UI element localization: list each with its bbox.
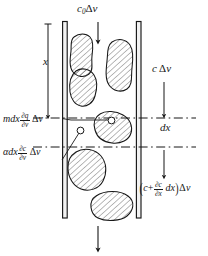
outlet-dx: dx (165, 182, 174, 193)
solid-numerator: ∂q (20, 112, 29, 120)
particle-middle-left (70, 69, 97, 106)
solid-partial-fraction: ∂q ∂v (20, 112, 29, 128)
fluid-lead: αdx (3, 146, 18, 157)
outlet-plus: + (148, 182, 154, 193)
inlet-delta: Δ (86, 2, 93, 14)
fluid-numerator: ∂c (18, 145, 27, 153)
distance-label: x (43, 56, 48, 67)
outlet-partial-fraction: ∂c ∂x (154, 181, 163, 197)
inlet-v: v (93, 2, 98, 14)
distance-x-arrow (45, 24, 52, 117)
fluid-denominator: ∂v (18, 153, 27, 162)
column-left-wall (63, 22, 68, 219)
particle-in-slab (94, 111, 131, 143)
side-c: c (152, 62, 157, 74)
slab-thickness-label: dx (160, 122, 170, 133)
outlet-close-paren: ) (175, 181, 178, 197)
outlet-delta: Δ (179, 182, 186, 193)
solid-lead: mdx (3, 113, 20, 124)
column-mass-balance-figure: c0Δv x c Δv dx mdx ∂q ∂v Δv αdx ∂c ∂v Δv… (0, 0, 208, 256)
particle-lower-left (68, 149, 106, 190)
accumulation-fluid-label: αdx ∂c ∂v Δv (3, 145, 41, 161)
side-flux-label: c Δv (152, 63, 171, 74)
outlet-denominator: ∂x (154, 189, 163, 198)
inlet-flux-label: c0Δv (77, 3, 97, 16)
outlet-numerator: ∂c (154, 181, 163, 189)
solid-denominator: ∂v (20, 120, 29, 129)
side-v: v (166, 62, 171, 74)
particle-upper-right (106, 40, 133, 91)
fluid-v: v (36, 146, 40, 157)
particle-lower-right (91, 192, 133, 221)
solid-v: v (38, 113, 42, 124)
outlet-open-paren: ( (140, 181, 143, 197)
outlet-flux-label: (c+ ∂c ∂x dx)Δv (139, 181, 190, 197)
outlet-v: v (186, 182, 190, 193)
accumulation-solid-label: mdx ∂q ∂v Δv (3, 112, 43, 128)
fluid-partial-fraction: ∂c ∂v (18, 145, 27, 161)
